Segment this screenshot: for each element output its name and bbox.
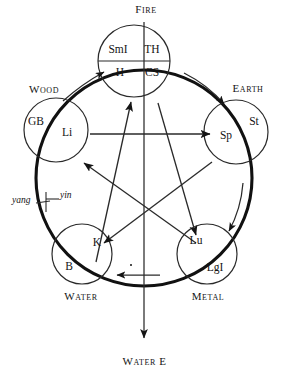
polarity-label-yang: yang — [12, 196, 30, 206]
organ-label-spleen: Sp — [220, 130, 232, 142]
organ-label-kidney: K — [93, 237, 101, 249]
wood-circle — [24, 98, 88, 162]
element-label-earth: Earth — [232, 83, 263, 94]
organ-label-lung: Lu — [190, 235, 203, 247]
element-label-metal: Metal — [192, 291, 225, 302]
center-dot — [130, 264, 132, 266]
organ-label-bladder: B — [65, 261, 73, 273]
control-arrow-water-to-fire — [96, 102, 131, 262]
organ-label-large-intestine: LgI — [207, 262, 224, 274]
organ-label-gall-bladder: GB — [28, 116, 44, 128]
element-label-fire: Fire — [135, 4, 156, 15]
control-arrow-earth-to-water — [104, 162, 212, 243]
organ-label-heart: H — [116, 67, 124, 79]
organ-label-liver: Li — [62, 127, 72, 139]
metal-circle — [177, 224, 237, 284]
cycle-arrow-wood-to-fire — [63, 72, 104, 101]
element-label-wood: Wood — [29, 84, 59, 95]
organ-label-stomach: St — [249, 116, 259, 128]
control-arrow-fire-to-metal — [158, 103, 196, 235]
organ-label-triple-heater: TH — [144, 44, 159, 56]
figure-caption: Water E — [0, 356, 289, 367]
organ-label-small-intestine: SmI — [108, 44, 127, 56]
earth-circle — [204, 100, 268, 164]
element-label-water: Water — [64, 291, 97, 302]
organ-label-circulation-sex: CS — [145, 67, 159, 79]
polarity-label-yin: yin — [60, 191, 72, 201]
